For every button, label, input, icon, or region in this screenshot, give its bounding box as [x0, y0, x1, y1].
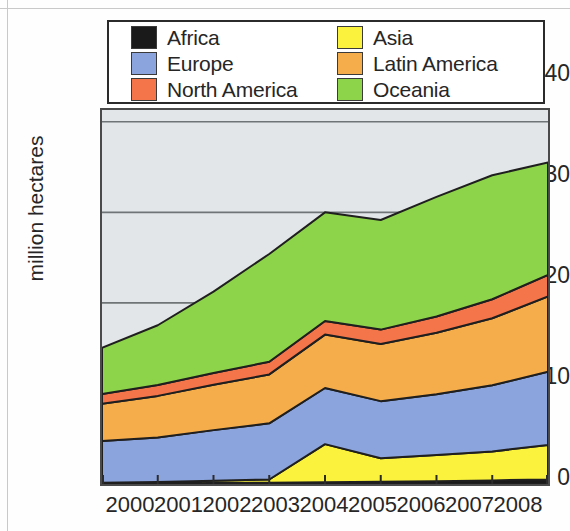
- xtick-2008: 2008: [490, 494, 546, 516]
- oceania-swatch: [337, 78, 363, 101]
- legend-label-europe: Europe: [167, 53, 234, 74]
- legend-item-north-america: North America: [131, 76, 337, 102]
- scan-edge-top: [0, 8, 570, 9]
- europe-swatch: [131, 52, 157, 75]
- y-axis-label: million hectares: [25, 94, 46, 324]
- legend-label-africa: Africa: [167, 27, 219, 48]
- ytick-40: 40: [476, 62, 570, 85]
- plot-area: [100, 108, 550, 486]
- asia-swatch: [337, 26, 363, 49]
- legend-label-north-america: North America: [167, 79, 297, 100]
- chart-figure: Africa Asia Europe Latin America North A…: [0, 0, 570, 531]
- scan-edge-left: [7, 0, 8, 531]
- legend-item-asia: Asia: [337, 24, 543, 50]
- legend-label-oceania: Oceania: [373, 79, 450, 100]
- legend-item-africa: Africa: [131, 24, 337, 50]
- north-america-swatch: [131, 78, 157, 101]
- stacked-area-svg: [102, 110, 548, 484]
- x-axis-ticks: 2000 2001 2002 2003 2004 2005 2006 2007 …: [100, 494, 548, 524]
- latin-america-swatch: [337, 52, 363, 75]
- legend-item-europe: Europe: [131, 50, 337, 76]
- legend-label-asia: Asia: [373, 27, 413, 48]
- africa-swatch: [131, 26, 157, 49]
